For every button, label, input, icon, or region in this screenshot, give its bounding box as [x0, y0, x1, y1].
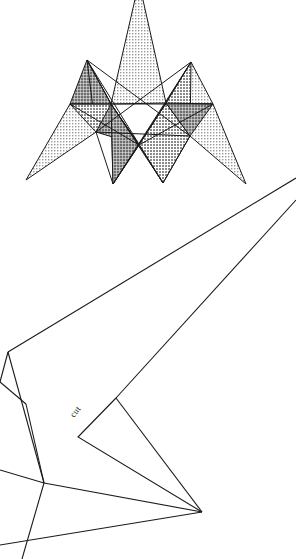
origami-star-fold-figure: cut	[0, 0, 296, 559]
figure-root: cut	[0, 0, 296, 559]
